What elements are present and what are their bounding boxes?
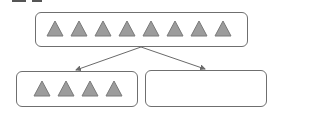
part-box-right-empty[interactable] xyxy=(145,70,267,107)
part-left-triangles xyxy=(33,80,129,97)
arrow-right xyxy=(141,47,205,69)
triangle-icon xyxy=(105,80,123,97)
triangle-icon xyxy=(81,80,99,97)
triangle-icon xyxy=(33,80,51,97)
triangle-icon xyxy=(57,80,75,97)
arrow-left xyxy=(76,47,141,70)
